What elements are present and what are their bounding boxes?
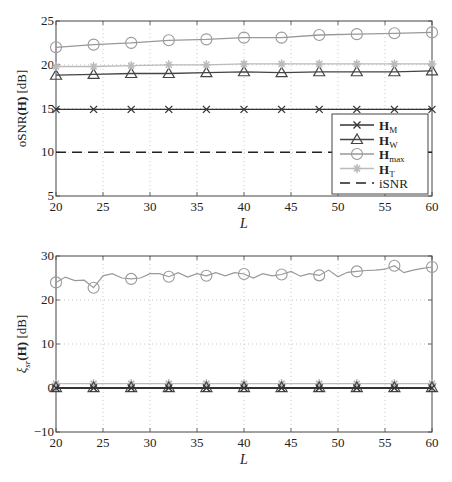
x-tick-label: 35 [191,199,204,214]
y-tick-label: 20 [41,57,54,72]
y-tick-label: 10 [41,144,54,159]
x-tick-label: 55 [379,435,392,450]
x-tick-label: 50 [332,199,345,214]
y-tick-label: 30 [41,248,54,263]
star-marker-icon [202,60,211,69]
star-marker-icon [89,62,98,71]
chart-canvas: 202530354045505560510152025LoSNR(H) [dB]… [0,0,452,482]
x-tick-label: 50 [332,435,345,450]
figure: 202530354045505560510152025LoSNR(H) [dB]… [0,0,452,482]
x-tick-label: 30 [144,199,157,214]
y-axis-label: oSNR(H) [dB] [14,70,29,148]
x-tick-label: 40 [238,435,251,450]
series-h-m [53,106,436,113]
legend: HMHWHmaxHTiSNR [332,114,428,194]
star-marker-icon [127,61,136,70]
y-tick-label: 20 [41,292,54,307]
x-tick-label: 25 [97,435,110,450]
x-tick-label: 60 [426,199,439,214]
bottom-plot-xi-sr: 202530354045505560−100102030Lξsr(H) [dB] [14,248,439,467]
y-tick-label: 15 [41,101,54,116]
x-tick-label: 60 [426,435,439,450]
x-tick-label: 45 [285,199,298,214]
x-tick-label: 40 [238,199,251,214]
series-h-t [52,379,437,388]
star-marker-icon [390,59,399,68]
legend-label: iSNR [379,176,408,191]
series-h-max [51,27,438,53]
star-marker-icon [428,59,437,68]
star-marker-icon [315,59,324,68]
x-tick-label: 35 [191,435,204,450]
y-tick-label: 10 [41,336,54,351]
x-tick-label: 55 [379,199,392,214]
star-marker-icon [164,60,173,69]
y-tick-label: 25 [41,13,54,28]
star-marker-icon [352,59,361,68]
triangle-marker-icon [163,68,174,78]
y-tick-label: 5 [48,188,55,203]
x-axis-label: L [239,452,248,467]
y-axis-label: ξsr(H) [dB] [14,315,32,373]
y-tick-label: −10 [34,424,54,439]
star-marker-icon [240,59,249,68]
x-tick-label: 45 [285,435,298,450]
x-tick-label: 30 [144,435,157,450]
x-axis-label: L [239,216,248,231]
star-marker-icon [277,59,286,68]
x-tick-label: 25 [97,199,110,214]
